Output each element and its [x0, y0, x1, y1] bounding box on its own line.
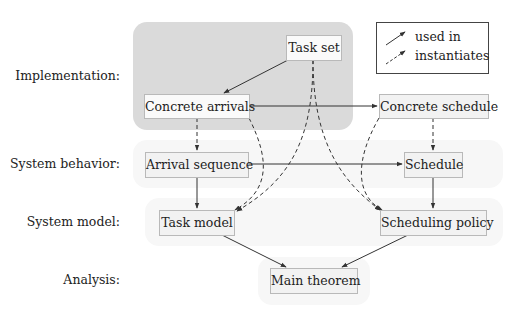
node-concrete-arrivals: Concrete arrivals: [144, 94, 250, 119]
legend: used in instantiates: [376, 22, 489, 74]
node-schedule: Schedule: [404, 152, 463, 178]
legend-used-in: used in: [415, 29, 461, 44]
node-task-model: Task model: [159, 210, 235, 236]
node-task-set: Task set: [286, 35, 342, 61]
node-main-theorem: Main theorem: [270, 268, 358, 294]
edge-schedulingpolicy-maintheorem: [342, 235, 408, 267]
edge-taskset-concretearrivals: [224, 60, 288, 93]
node-arrival-sequence: Arrival sequence: [145, 152, 249, 178]
node-scheduling-policy: Scheduling policy: [380, 210, 487, 236]
node-concrete-schedule: Concrete schedule: [379, 94, 489, 119]
legend-solid-arrow-icon: [386, 32, 405, 45]
edge-taskmodel-maintheorem: [222, 235, 286, 267]
edge-taskset-schedulingpolicy: [313, 60, 380, 210]
legend-dashed-arrow-icon: [386, 51, 405, 64]
edge-taskset-taskmodel: [237, 60, 313, 211]
legend-instantiates: instantiates: [415, 48, 489, 63]
legend-arrows: [383, 23, 413, 73]
